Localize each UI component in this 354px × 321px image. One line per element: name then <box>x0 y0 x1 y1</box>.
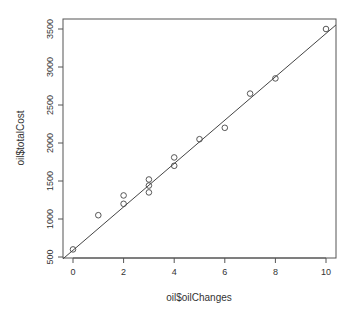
y-tick-label: 1000 <box>45 209 55 229</box>
x-axis-label: oil$oilChanges <box>166 292 232 303</box>
data-point <box>70 247 76 253</box>
plot-box <box>63 19 336 258</box>
data-point <box>121 201 127 207</box>
y-tick-label: 1500 <box>45 171 55 191</box>
x-tick-label: 10 <box>321 267 331 277</box>
data-point <box>96 212 102 218</box>
x-tick-label: 6 <box>222 267 227 277</box>
data-point <box>222 125 228 131</box>
y-axis: 500100015002000250030003500 <box>45 19 63 265</box>
x-tick-label: 4 <box>172 267 177 277</box>
y-tick-label: 3000 <box>45 57 55 77</box>
data-point <box>146 190 152 196</box>
y-axis-label: oil$totalCost <box>15 110 26 165</box>
data-point <box>146 177 152 183</box>
x-tick-label: 8 <box>273 267 278 277</box>
data-point <box>323 26 329 32</box>
y-tick-label: 2500 <box>45 95 55 115</box>
y-tick-label: 3500 <box>45 19 55 39</box>
y-tick-label: 2000 <box>45 133 55 153</box>
data-point <box>121 193 127 199</box>
x-tick-label: 2 <box>121 267 126 277</box>
data-points <box>70 26 329 252</box>
scatter-plot: 0246810 500100015002000250030003500 oil$… <box>0 0 354 321</box>
data-point <box>197 136 203 142</box>
data-point <box>171 155 177 161</box>
x-axis: 0246810 <box>70 258 331 277</box>
y-tick-label: 500 <box>45 249 55 264</box>
data-point <box>247 91 253 97</box>
x-tick-label: 0 <box>70 267 75 277</box>
